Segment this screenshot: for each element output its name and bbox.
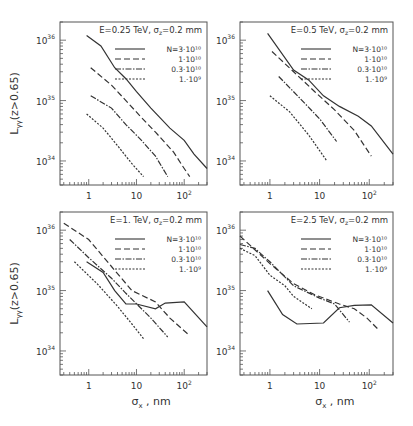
x-tick-label: 10 — [131, 191, 143, 201]
series-line — [87, 114, 144, 177]
series-line — [240, 236, 378, 329]
panel-title: E=0.25 TeV, σz=0.2 mm — [99, 25, 202, 36]
legend-label: N=3·10¹⁰ — [166, 235, 201, 244]
chart-panel-2: 110102103610351034E=0.5 TeV, σz=0.2 mmN=… — [216, 22, 393, 201]
series-line — [240, 248, 312, 308]
x-axis-label: σx , nm — [315, 395, 354, 410]
series-line — [268, 291, 393, 324]
legend-label: 1.·10⁹ — [365, 265, 387, 274]
panel-title: E=2.5 TeV, σz=0.2 mm — [291, 215, 388, 226]
x-tick-label: 102 — [177, 189, 192, 201]
series-line — [70, 240, 168, 338]
y-tick-label: 1035 — [36, 94, 55, 107]
series-line — [91, 96, 168, 177]
legend-label: N=3·10¹⁰ — [166, 45, 201, 54]
legend-label: N=3·10¹⁰ — [352, 235, 387, 244]
legend-label: 1.·10⁹ — [179, 75, 201, 84]
x-tick-label: 1 — [267, 381, 273, 391]
legend-label: 1·10¹⁰ — [364, 55, 387, 64]
series-line — [91, 68, 190, 177]
y-axis-label: Lγγ(z>0.65) — [8, 72, 23, 135]
y-tick-label: 1035 — [216, 94, 235, 107]
series-line — [270, 96, 327, 161]
panel-title: E=1. TeV, σz=0.2 mm — [110, 215, 202, 226]
y-tick-label: 1034 — [216, 154, 235, 167]
legend-label: 1.·10⁹ — [365, 75, 387, 84]
legend-label: N=3·10¹⁰ — [352, 45, 387, 54]
y-tick-label: 1035 — [216, 284, 235, 297]
x-tick-label: 102 — [177, 379, 192, 391]
x-tick-label: 10 — [314, 191, 326, 201]
x-tick-label: 10 — [131, 381, 143, 391]
x-tick-label: 102 — [362, 189, 377, 201]
x-tick-label: 1 — [86, 191, 92, 201]
y-tick-label: 1034 — [216, 344, 235, 357]
series-line — [279, 77, 337, 142]
x-axis-label: σx , nm — [131, 395, 170, 410]
y-tick-label: 1036 — [216, 223, 235, 236]
legend-label: 1·10¹⁰ — [178, 245, 201, 254]
chart-panel-3: 110102103610351034E=1. TeV, σz=0.2 mmN=3… — [8, 212, 207, 410]
panel-title: E=0.5 TeV, σz=0.2 mm — [291, 25, 388, 36]
legend-label: 0.3·10¹⁰ — [171, 255, 201, 264]
y-tick-label: 1034 — [36, 154, 55, 167]
legend-label: 0.3·10¹⁰ — [357, 255, 387, 264]
y-axis-label: Lγγ(z>0.65) — [8, 262, 23, 325]
y-tick-label: 1036 — [36, 33, 55, 46]
x-tick-label: 1 — [86, 381, 92, 391]
x-tick-label: 10 — [314, 381, 326, 391]
x-tick-label: 102 — [362, 379, 377, 391]
legend-label: 1·10¹⁰ — [364, 245, 387, 254]
chart-panel-1: 110102103610351034E=0.25 TeV, σz=0.2 mmN… — [8, 22, 207, 201]
legend-label: 1.·10⁹ — [179, 265, 201, 274]
y-tick-label: 1036 — [36, 223, 55, 236]
legend-label: 1·10¹⁰ — [178, 55, 201, 64]
y-tick-label: 1035 — [36, 284, 55, 297]
y-tick-label: 1034 — [36, 344, 55, 357]
x-tick-label: 1 — [267, 191, 273, 201]
figure: 110102103610351034E=0.25 TeV, σz=0.2 mmN… — [0, 0, 413, 426]
y-tick-label: 1036 — [216, 33, 235, 46]
legend-label: 0.3·10¹⁰ — [357, 65, 387, 74]
chart-panel-4: 110102103610351034E=2.5 TeV, σz=0.2 mmN=… — [216, 212, 393, 410]
series-line — [240, 245, 350, 323]
legend-label: 0.3·10¹⁰ — [171, 65, 201, 74]
